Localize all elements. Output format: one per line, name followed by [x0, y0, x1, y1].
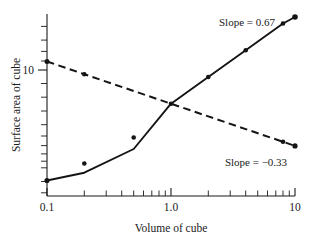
data-point-marker — [131, 135, 136, 140]
x-tick-label-0.1: 0.1 — [40, 201, 55, 213]
data-point-marker — [44, 178, 49, 183]
data-point-marker — [206, 75, 211, 80]
y-tick-label-10: 10 — [23, 64, 35, 76]
data-point-marker — [281, 140, 286, 145]
data-point-marker — [243, 48, 248, 53]
annotation-slope-positive: Slope = 0.67 — [219, 16, 276, 28]
data-point-marker — [292, 14, 298, 20]
y-axis-title: Surface area of cube — [10, 58, 22, 152]
data-point-marker — [45, 59, 50, 64]
x-tick-label-10: 10 — [289, 201, 301, 213]
x-axis-title: Volume of cube — [135, 222, 208, 234]
x-tick-label-1.0: 1.0 — [164, 201, 179, 213]
annotation-slope-negative: Slope = −0.33 — [225, 156, 288, 168]
data-point-marker — [281, 21, 286, 26]
chart-figure: 10 0.1 1.0 10 Volume of cube Surface are… — [0, 0, 321, 245]
data-point-marker — [82, 161, 87, 166]
data-point-marker — [292, 143, 297, 148]
log-log-plot: 10 0.1 1.0 10 Volume of cube Surface are… — [0, 0, 321, 245]
data-point-marker — [82, 72, 87, 77]
